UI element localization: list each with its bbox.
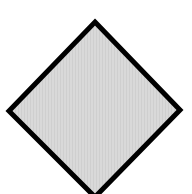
diagram-canvas (0, 0, 192, 194)
